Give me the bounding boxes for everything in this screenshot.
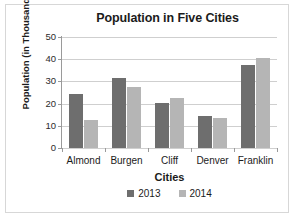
y-tick-label: 30 (36, 75, 56, 86)
bar-burgen-2014 (127, 87, 141, 148)
x-tick-label-franklin: Franklin (234, 155, 277, 166)
bar-denver-2013 (198, 116, 212, 148)
chart-title: Population in Five Cities (55, 11, 280, 25)
y-tick-mark (58, 37, 62, 38)
x-tick-label-denver: Denver (191, 155, 234, 166)
y-tick-mark (58, 126, 62, 127)
y-axis-title: Population (in Thousands) (20, 0, 31, 110)
y-tick-label: 50 (36, 31, 56, 42)
legend-item-2013[interactable]: 2013 (127, 188, 160, 199)
y-tick-mark (58, 104, 62, 105)
x-tick-mark (148, 148, 149, 152)
gridline (62, 148, 277, 149)
x-tick-mark (234, 148, 235, 152)
legend-swatch-2013 (127, 190, 134, 197)
x-tick-mark (191, 148, 192, 152)
y-tick-label: 40 (36, 53, 56, 64)
chart-figure: Population in Five Cities Population (in… (0, 0, 294, 217)
chart-legend: 20132014 (62, 188, 277, 199)
x-tick-label-cliff: Cliff (148, 155, 191, 166)
gridline (62, 37, 277, 38)
y-tick-label: 10 (36, 120, 56, 131)
bar-franklin-2014 (256, 58, 270, 148)
bar-burgen-2013 (112, 78, 126, 148)
bar-denver-2014 (213, 118, 227, 148)
x-tick-label-burgen: Burgen (105, 155, 148, 166)
x-tick-mark (105, 148, 106, 152)
x-axis-title: Cities (62, 171, 277, 183)
bar-franklin-2013 (241, 65, 255, 148)
legend-label-2013: 2013 (138, 188, 160, 199)
legend-label-2014: 2014 (190, 188, 212, 199)
bar-almond-2013 (69, 94, 83, 148)
y-tick-mark (58, 81, 62, 82)
bar-cliff-2014 (170, 98, 184, 148)
bar-cliff-2013 (155, 103, 169, 149)
y-tick-label: 20 (36, 98, 56, 109)
legend-swatch-2014 (179, 190, 186, 197)
plot-area (62, 37, 277, 148)
x-tick-label-almond: Almond (62, 155, 105, 166)
y-tick-label: 0 (36, 142, 56, 153)
y-tick-mark (58, 59, 62, 60)
bar-almond-2014 (84, 120, 98, 148)
gridline (62, 59, 277, 60)
x-tick-mark (62, 148, 63, 152)
x-tick-mark (277, 148, 278, 152)
legend-item-2014[interactable]: 2014 (179, 188, 212, 199)
